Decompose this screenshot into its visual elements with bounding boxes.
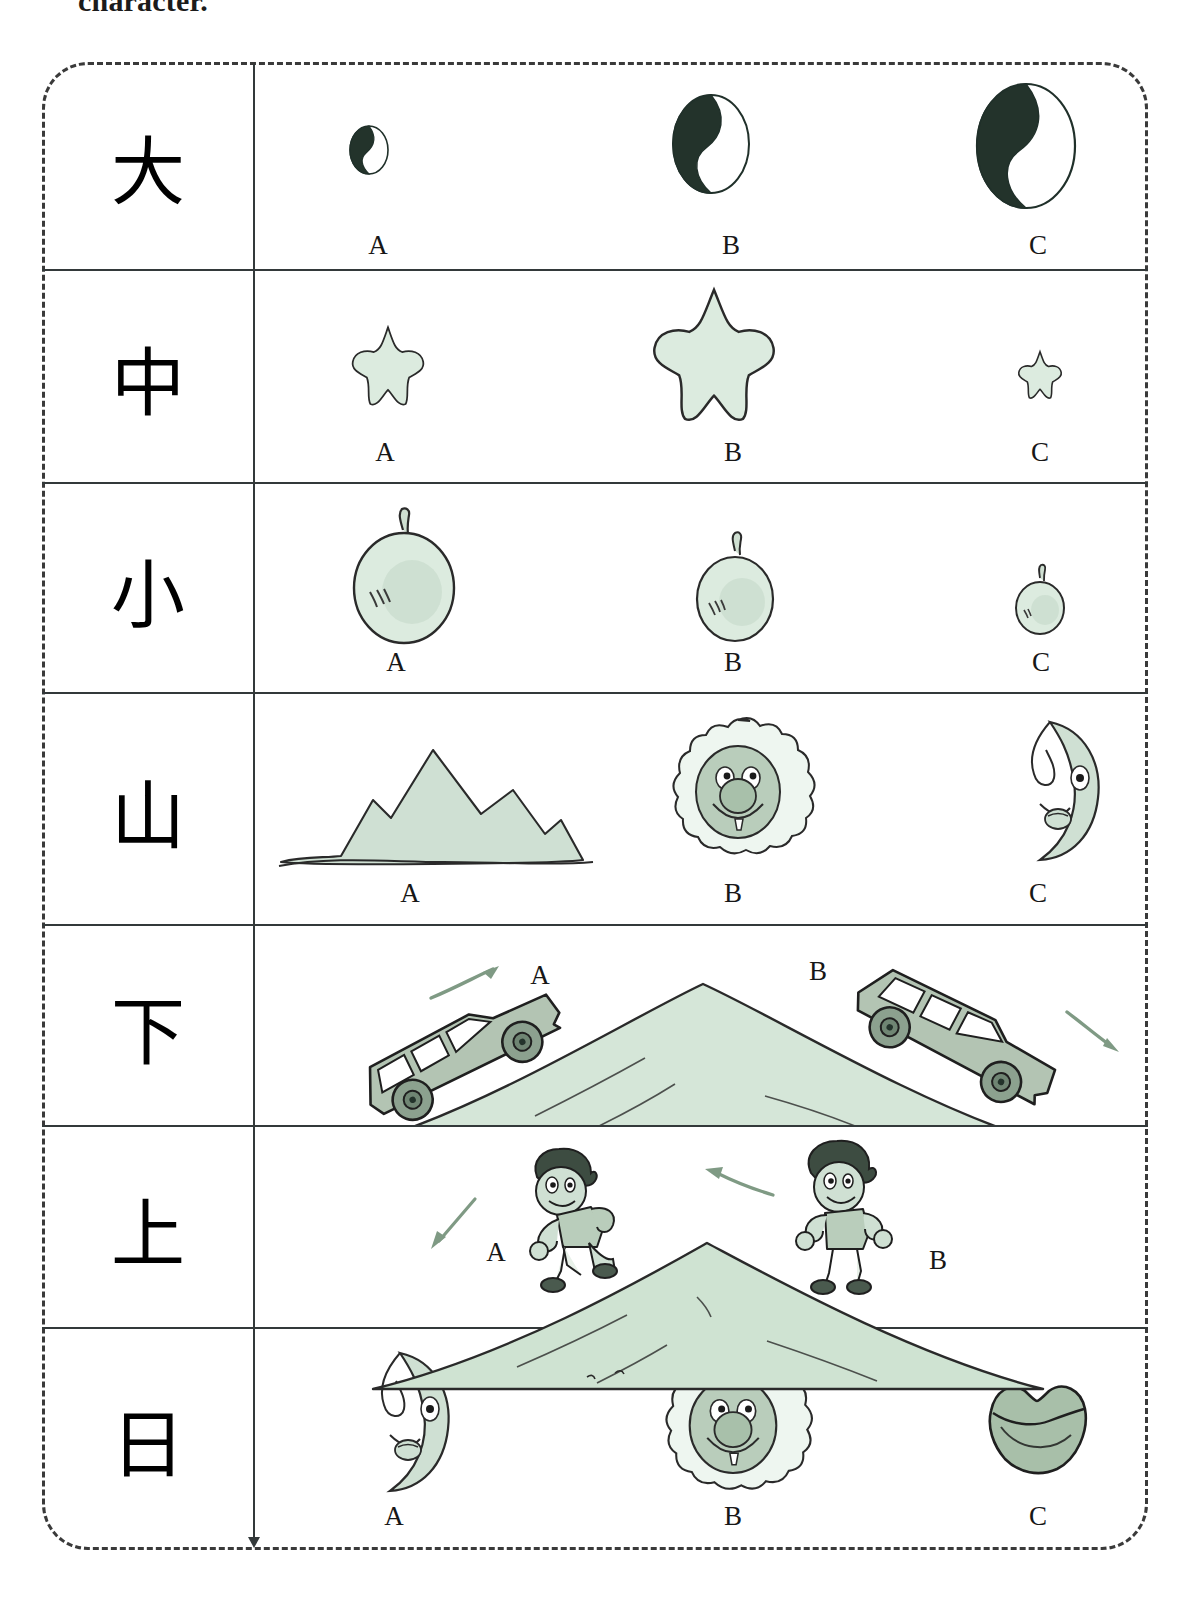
option-label-a: A — [371, 1501, 417, 1532]
option-label-b: B — [710, 647, 756, 678]
options-row-xia: A — [255, 926, 1148, 1125]
option-label-a: A — [517, 960, 563, 991]
character-cell-da: 大 — [42, 62, 253, 269]
person-uphill-icon[interactable] — [775, 1137, 915, 1297]
arrow-down-left-icon — [423, 1193, 483, 1255]
character-cell-ri: 日 — [42, 1329, 253, 1548]
worksheet-table: 大 A B C 中 — [42, 62, 1148, 1550]
yinyang-large-icon[interactable] — [973, 80, 1079, 212]
character-cell-shan: 山 — [42, 694, 253, 924]
apple-medium-icon[interactable] — [685, 529, 785, 649]
option-label-a: A — [355, 230, 401, 261]
options-row-shang: A — [255, 1127, 1148, 1327]
arrow-up-icon — [427, 962, 507, 1004]
option-label-a: A — [373, 647, 419, 678]
options-row-shan: A B — [255, 694, 1148, 924]
character-cell-shang: 上 — [42, 1127, 253, 1327]
option-label-b: B — [710, 1501, 756, 1532]
apple-large-icon[interactable] — [340, 504, 470, 649]
apple-small-icon[interactable] — [1007, 562, 1073, 640]
option-label-b: B — [795, 956, 841, 987]
yinyang-small-icon[interactable] — [348, 124, 390, 176]
sun-face-icon[interactable] — [663, 712, 813, 872]
option-label-c: C — [1017, 437, 1063, 468]
star-medium-icon[interactable] — [343, 323, 433, 411]
star-large-icon[interactable] — [640, 284, 788, 429]
star-small-icon[interactable] — [1013, 349, 1067, 402]
character-cell-xiao: 小 — [42, 484, 253, 692]
options-row-xiao: A B C — [255, 484, 1148, 692]
option-label-c: C — [1015, 878, 1061, 909]
options-row-zhong: A B C — [255, 271, 1148, 482]
character-cell-xia: 下 — [42, 926, 253, 1125]
arrow-up-left-icon — [695, 1161, 779, 1203]
option-label-a: A — [387, 878, 433, 909]
hill-shape — [367, 1237, 1047, 1397]
person-downhill-icon[interactable] — [503, 1143, 643, 1293]
mountain-range-icon[interactable] — [273, 734, 603, 874]
option-label-b: B — [710, 437, 756, 468]
option-label-c: C — [1015, 230, 1061, 261]
yinyang-medium-icon[interactable] — [670, 92, 752, 197]
moon-face-icon[interactable] — [1010, 716, 1108, 866]
character-cell-zhong: 中 — [42, 271, 253, 482]
option-label-c: C — [1018, 647, 1064, 678]
arrow-down-icon — [1061, 1006, 1131, 1058]
options-row-da: A B C — [255, 62, 1148, 269]
option-label-a: A — [362, 437, 408, 468]
instruction-text: character. — [78, 0, 578, 14]
option-label-b: B — [710, 878, 756, 909]
car-downhill-icon[interactable] — [825, 960, 1095, 1120]
option-label-c: C — [1015, 1501, 1061, 1532]
option-label-b: B — [708, 230, 754, 261]
